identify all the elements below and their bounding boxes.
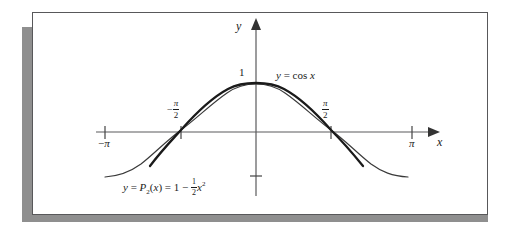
- fraction-numerator: π: [173, 99, 180, 110]
- y-axis-label: y: [236, 20, 241, 32]
- pi-glyph: π: [409, 137, 415, 149]
- fraction-denominator: 2: [191, 188, 197, 197]
- fraction-denominator: 2: [173, 110, 180, 120]
- fraction-numerator: π: [322, 99, 329, 110]
- x-axis-label: x: [437, 136, 442, 148]
- x-tick-label-pi: π: [409, 138, 415, 149]
- cosine-curve-annotation: y = cos x: [276, 70, 315, 81]
- x-tick-label-neg-pi: −π: [98, 138, 110, 149]
- fraction: π2: [322, 99, 329, 120]
- plot-canvas: [0, 0, 512, 233]
- figure-root: y x 1 −π π −π2 π2 y = cos x y = P2(x) = …: [0, 0, 512, 233]
- fraction-numerator: 1: [191, 178, 197, 188]
- parabola-curve-annotation: y = P2(x) = 1 − 12x2: [123, 179, 205, 198]
- fraction: π2: [173, 99, 180, 120]
- one-half-fraction: 12: [191, 178, 197, 197]
- x-squared-exponent: 2: [202, 180, 206, 188]
- y-axis-arrow-icon: [251, 18, 261, 30]
- pi-glyph: π: [104, 137, 110, 149]
- cos-function-name: cos: [293, 69, 308, 81]
- y-unit-label: 1: [239, 67, 245, 78]
- x-tick-label-neg-half-pi: −π2: [167, 100, 179, 121]
- fraction-denominator: 2: [322, 110, 329, 120]
- cos-argument: x: [310, 69, 315, 81]
- x-tick-label-half-pi: π2: [322, 100, 329, 121]
